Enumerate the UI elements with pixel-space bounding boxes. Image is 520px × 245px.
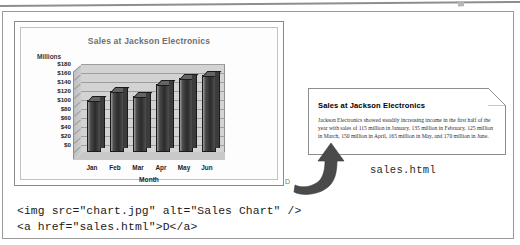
- document-body-text: Jackson Electronics showed steadily incr…: [318, 116, 494, 141]
- curved-arrow-icon: [291, 142, 371, 198]
- html-code-block: <img src="chart.jpg" alt="Sales Chart" /…: [17, 203, 301, 235]
- bar-mar-side: [146, 92, 151, 148]
- bar-jun-side: [215, 71, 220, 148]
- bar-jun: [202, 75, 216, 152]
- chart-xaxis-ticks: Jan Feb Mar Apr May Jun: [73, 164, 233, 176]
- link-marker-d[interactable]: D: [285, 178, 290, 185]
- ytick-100: $100: [39, 97, 71, 103]
- ytick-160: $160: [39, 70, 71, 76]
- bar-jan-side: [100, 96, 105, 148]
- ytick-140: $140: [39, 79, 71, 85]
- code-line-anchor: <a href="sales.html">D</a>: [17, 221, 197, 233]
- chart-plot-area: [73, 64, 225, 160]
- ytick-20: $20: [39, 133, 71, 139]
- figure-frame: Sales at Jackson Electronics Millions $1…: [2, 11, 514, 239]
- bar-apr-side: [169, 80, 174, 148]
- chart-yaxis-unit-label: Millions: [37, 53, 61, 60]
- ytick-40: $40: [39, 124, 71, 130]
- bar-mar: [133, 96, 147, 152]
- bar-may-side: [192, 74, 197, 148]
- ytick-60: $60: [39, 115, 71, 121]
- bar-may: [179, 78, 193, 152]
- document-title: Sales at Jackson Electronics: [318, 101, 425, 110]
- ytick-80: $80: [39, 106, 71, 112]
- bar-feb-side: [123, 87, 128, 148]
- ytick-120: $120: [39, 88, 71, 94]
- bar-feb: [110, 91, 124, 152]
- chart-image-panel: Sales at Jackson Electronics Millions $1…: [14, 21, 284, 186]
- gridline-180: [81, 64, 225, 65]
- chart-yaxis-ticks: $180 $160 $140 $120 $100 $80 $60 $40 $20…: [35, 64, 71, 160]
- chart-title: Sales at Jackson Electronics: [21, 36, 277, 46]
- chart-plot-container: Sales at Jackson Electronics Millions $1…: [20, 27, 278, 180]
- code-line-img: <img src="chart.jpg" alt="Sales Chart" /…: [17, 205, 301, 217]
- document-fold-corner-icon: [488, 88, 506, 106]
- page-top-rule-mark: [458, 1, 464, 6]
- bar-apr: [156, 84, 170, 152]
- page-top-rule: [0, 1, 520, 7]
- bar-jan: [87, 100, 101, 152]
- xtick-jun: Jun: [194, 164, 220, 171]
- chart-xaxis-title: Month: [73, 176, 225, 183]
- ytick-0: $0: [39, 142, 71, 148]
- ytick-180: $180: [39, 61, 71, 67]
- file-name-caption: sales.html: [370, 164, 436, 176]
